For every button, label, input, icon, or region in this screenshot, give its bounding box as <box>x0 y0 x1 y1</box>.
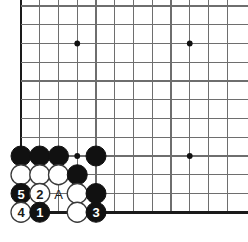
black-stone-icon <box>11 146 31 166</box>
white-stone-icon <box>67 202 87 222</box>
star-point-icon <box>74 41 80 47</box>
point-label-A: A <box>54 187 63 202</box>
star-point-icon <box>187 153 193 159</box>
move-number-label: 4 <box>17 205 25 220</box>
stone-black[interactable] <box>11 146 31 166</box>
stone-white[interactable] <box>67 202 87 222</box>
black-stone-icon <box>86 184 106 204</box>
move-stone-2[interactable]: 2 <box>30 184 50 204</box>
stone-white[interactable] <box>49 165 69 185</box>
stone-black[interactable] <box>30 146 50 166</box>
star-point-icon <box>187 41 193 47</box>
stone-black[interactable] <box>49 146 69 166</box>
white-stone-icon <box>11 165 31 185</box>
stone-white[interactable] <box>11 165 31 185</box>
move-number-label: 3 <box>92 205 99 220</box>
white-stone-icon <box>49 165 69 185</box>
move-stone-4[interactable]: 4 <box>11 202 31 222</box>
point-labels-layer: A <box>54 187 63 202</box>
move-number-label: 2 <box>36 187 43 202</box>
go-board[interactable]: 52413 A <box>0 0 248 242</box>
stone-white[interactable] <box>67 184 87 204</box>
stone-black[interactable] <box>86 184 106 204</box>
move-stone-1[interactable]: 1 <box>30 202 50 222</box>
black-stone-icon <box>67 165 87 185</box>
black-stone-icon <box>30 146 50 166</box>
black-stone-icon <box>49 146 69 166</box>
stone-black[interactable] <box>86 146 106 166</box>
move-number-label: 5 <box>17 187 24 202</box>
white-stone-icon <box>67 184 87 204</box>
move-stone-5[interactable]: 5 <box>11 184 31 204</box>
black-stone-icon <box>86 146 106 166</box>
stone-black[interactable] <box>67 165 87 185</box>
star-point-icon <box>74 153 80 159</box>
move-stone-3[interactable]: 3 <box>86 202 106 222</box>
stone-white[interactable] <box>30 165 50 185</box>
go-diagram: 52413 A <box>0 0 248 242</box>
move-number-label: 1 <box>36 205 43 220</box>
white-stone-icon <box>30 165 50 185</box>
